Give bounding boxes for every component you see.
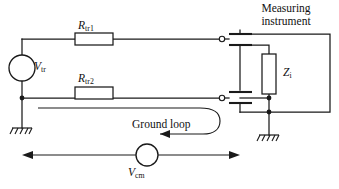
measuring-instrument-line1: Measuring bbox=[261, 2, 310, 14]
source-vcm-symbol: V bbox=[128, 166, 135, 178]
resistor-rtr1-label: Rtr1 bbox=[78, 19, 94, 32]
impedance-zi bbox=[262, 54, 276, 94]
resistor-rtr1-subscript: tr1 bbox=[85, 24, 94, 33]
impedance-zi-subscript: i bbox=[289, 71, 291, 80]
junction-dot-left-bottom bbox=[20, 96, 25, 101]
common-mode-arrow bbox=[22, 151, 240, 159]
binding-post-top bbox=[229, 30, 252, 90]
voltage-source-vcm bbox=[136, 144, 158, 166]
ground-symbol-left bbox=[10, 128, 32, 134]
voltage-source-vtr bbox=[9, 55, 35, 81]
source-vtr-subscript: tr bbox=[41, 65, 46, 74]
resistor-rtr2-label: Rtr2 bbox=[78, 72, 94, 85]
measuring-instrument-line2: instrument bbox=[243, 15, 329, 28]
input-terminal-bottom bbox=[219, 95, 224, 100]
common-mode-arrowhead-right bbox=[229, 151, 240, 159]
impedance-zi-label: Zi bbox=[283, 66, 292, 79]
resistor-rtr2-subscript: tr2 bbox=[85, 77, 94, 86]
ground-symbol-right bbox=[257, 112, 279, 141]
resistor-rtr2-symbol: R bbox=[78, 72, 85, 84]
source-vcm-subscript: cm bbox=[135, 171, 145, 180]
source-vcm-label: Vcm bbox=[128, 166, 145, 179]
ground-loop-arrow bbox=[38, 108, 220, 138]
resistor-rtr1 bbox=[75, 33, 113, 45]
input-terminal-top bbox=[219, 36, 224, 41]
source-vtr-label: Vtr bbox=[34, 60, 46, 73]
measuring-instrument-label: Measuring instrument bbox=[243, 2, 329, 27]
resistor-rtr2 bbox=[75, 87, 113, 99]
circuit-diagram: Measuring instrument Rtr1 Rtr2 Vtr Zi Gr… bbox=[0, 0, 339, 189]
top-signal-branch bbox=[22, 39, 219, 55]
circuit-schematic-canvas bbox=[0, 0, 339, 189]
junction-dot-zi-bottom bbox=[267, 96, 272, 101]
source-vtr-symbol: V bbox=[34, 60, 41, 72]
binding-post-bottom bbox=[229, 92, 252, 112]
common-mode-arrowhead-left bbox=[22, 151, 33, 159]
ground-loop-arrowhead bbox=[160, 130, 170, 138]
resistor-rtr1-symbol: R bbox=[78, 19, 85, 31]
ground-loop-label: Ground loop bbox=[132, 118, 190, 131]
